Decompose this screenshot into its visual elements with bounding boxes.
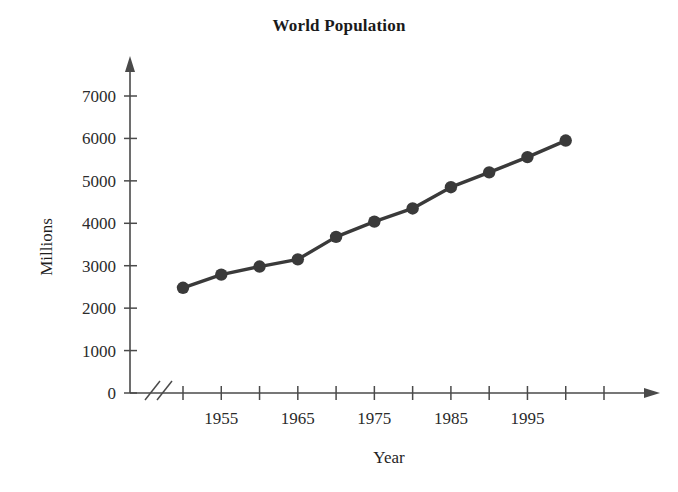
data-point-marker xyxy=(253,260,265,272)
data-series-line xyxy=(183,141,566,288)
chart-page: World Population 01000200030004000500060… xyxy=(0,0,678,492)
y-tick-label: 7000 xyxy=(82,87,116,106)
axis-break-icon xyxy=(145,381,172,400)
x-tick-label: 1975 xyxy=(357,409,391,428)
data-point-marker xyxy=(445,181,457,193)
y-tick-label: 0 xyxy=(108,384,117,403)
data-point-marker xyxy=(292,253,304,265)
y-tick-label: 2000 xyxy=(82,299,116,318)
y-tick-label: 5000 xyxy=(82,172,116,191)
x-tick-labels: 19551965197519851995 xyxy=(204,409,544,428)
y-tick-label: 6000 xyxy=(82,129,116,148)
x-tick-label: 1955 xyxy=(204,409,238,428)
data-point-marker xyxy=(521,151,533,163)
data-point-marker xyxy=(406,202,418,214)
y-tick-label: 3000 xyxy=(82,257,116,276)
y-tick-label: 4000 xyxy=(82,214,116,233)
y-axis xyxy=(125,56,135,393)
x-tick-label: 1995 xyxy=(510,409,544,428)
x-axis-arrow-icon xyxy=(644,388,660,398)
data-point-marker xyxy=(330,231,342,243)
data-point-marker xyxy=(215,268,227,280)
x-tick-label: 1965 xyxy=(281,409,315,428)
line-chart-plot: 01000200030004000500060007000 1955196519… xyxy=(0,0,678,492)
y-tick-labels: 01000200030004000500060007000 xyxy=(82,87,116,403)
data-point-marker xyxy=(560,134,572,146)
y-tick-label: 1000 xyxy=(82,342,116,361)
data-point-marker xyxy=(177,282,189,294)
y-axis-arrow-icon xyxy=(125,56,135,72)
x-axis-title: Year xyxy=(373,448,405,467)
y-axis-title: Millions xyxy=(37,218,56,276)
x-tick-label: 1985 xyxy=(434,409,468,428)
data-point-marker xyxy=(483,166,495,178)
data-point-marker xyxy=(368,215,380,227)
x-axis xyxy=(130,381,660,400)
